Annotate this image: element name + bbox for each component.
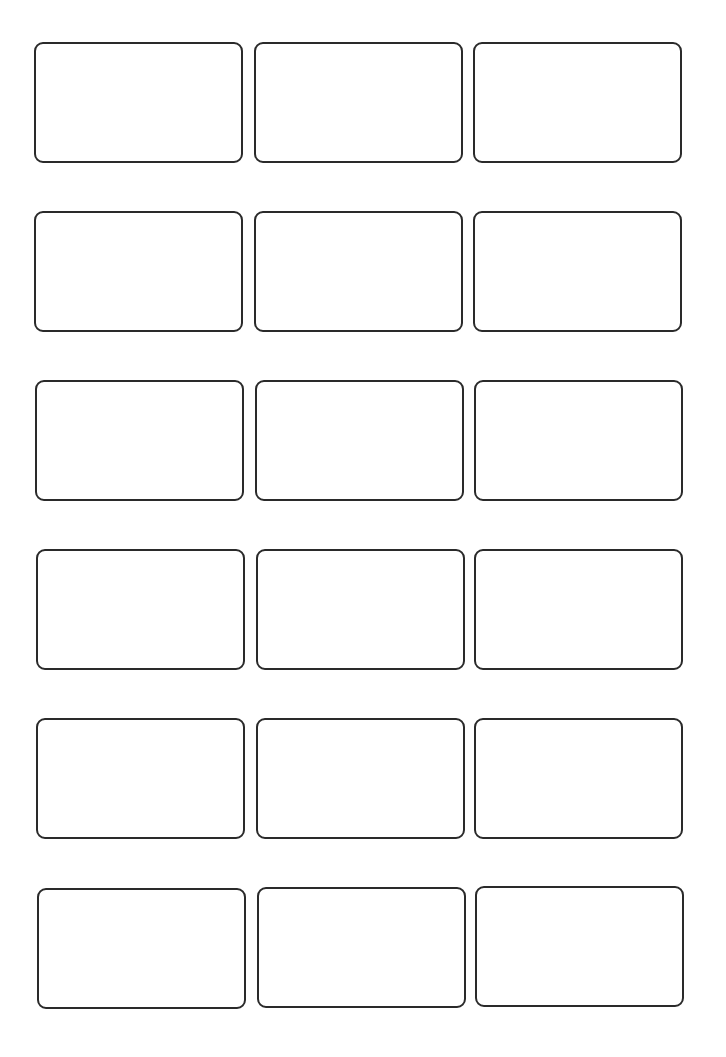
label-box [473, 211, 682, 332]
label-box [256, 549, 465, 670]
label-sheet [0, 0, 726, 1057]
label-box [475, 886, 684, 1007]
label-box [256, 718, 465, 839]
label-box [37, 888, 246, 1009]
label-box [254, 211, 463, 332]
label-box [474, 718, 683, 839]
label-box [255, 380, 464, 501]
label-box [34, 42, 243, 163]
label-box [36, 718, 245, 839]
label-box [35, 380, 244, 501]
label-box [36, 549, 245, 670]
label-box [254, 42, 463, 163]
label-box [34, 211, 243, 332]
label-box [257, 887, 466, 1008]
label-box [474, 549, 683, 670]
label-box [474, 380, 683, 501]
label-box [473, 42, 682, 163]
